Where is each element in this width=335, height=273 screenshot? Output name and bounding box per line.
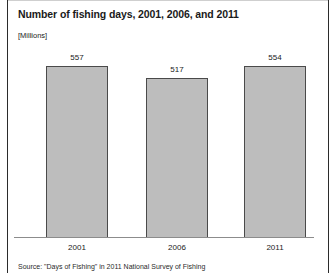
- chart-figure: Number of fishing days, 2001, 2006, and …: [0, 0, 335, 273]
- x-tick-label-2011: 2011: [245, 243, 305, 252]
- bar-value-2006: 517: [147, 65, 207, 74]
- x-tick-label-2001: 2001: [47, 243, 107, 252]
- chart-title: Number of fishing days, 2001, 2006, and …: [18, 8, 239, 20]
- source-note: Source: "Days of Fishing" in 2011 Nation…: [18, 263, 318, 273]
- figure-right-border: [328, 0, 329, 273]
- plot-area: [18, 46, 318, 238]
- bar-2011: [244, 66, 306, 238]
- figure-left-border: [7, 0, 8, 273]
- figure-top-border: [7, 0, 329, 1]
- bar-value-2001: 557: [47, 53, 107, 62]
- x-tick-label-2006: 2006: [147, 243, 207, 252]
- bar-2006: [146, 78, 208, 238]
- bar-value-2011: 554: [245, 53, 305, 62]
- bar-2001: [46, 66, 108, 238]
- x-axis-line: [14, 237, 314, 238]
- chart-units-subtitle: [Millions]: [18, 31, 47, 40]
